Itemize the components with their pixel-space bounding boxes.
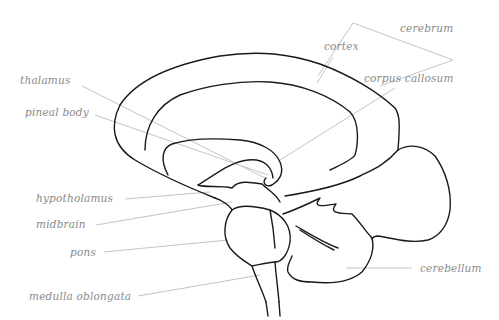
brainstem-left-outline bbox=[215, 198, 266, 302]
corpus-callosum-leader-line bbox=[280, 88, 395, 160]
label-cortex: cortex bbox=[324, 40, 359, 52]
label-hypotholamus: hypotholamus bbox=[36, 192, 113, 204]
occipital-lobe-outline bbox=[372, 146, 450, 241]
tentorium-outline bbox=[285, 150, 398, 196]
pineal-body-leader-line bbox=[95, 115, 268, 175]
pons-outline bbox=[252, 262, 279, 302]
hypotholamus-leader-line bbox=[125, 192, 210, 199]
label-pineal-body: pineal body bbox=[25, 106, 89, 118]
cortex-leader-line bbox=[317, 57, 333, 83]
label-pons: pons bbox=[70, 246, 96, 258]
midbrain-leader-line bbox=[96, 202, 232, 225]
label-cerebellum: cerebellum bbox=[420, 262, 482, 274]
spinal-cord-outline-2 bbox=[279, 302, 280, 316]
cortex-inner-outline bbox=[145, 82, 357, 170]
cerebellum-folia-line-2 bbox=[300, 230, 334, 250]
label-medulla-oblongata: medulla oblongata bbox=[29, 290, 131, 302]
pons-right-outline bbox=[270, 210, 290, 262]
pons-leader-line bbox=[104, 240, 228, 252]
label-corpus-callosum: corpus callosum bbox=[364, 72, 454, 84]
leader-lines bbox=[82, 23, 453, 296]
midbrain-outline bbox=[232, 206, 275, 248]
cerebellum-outline bbox=[283, 198, 373, 283]
label-midbrain: midbrain bbox=[36, 218, 86, 230]
cerebellum-folia-line bbox=[296, 226, 338, 248]
medulla-oblongata-leader-line bbox=[138, 275, 260, 296]
label-thalamus: thalamus bbox=[20, 74, 71, 86]
brain-outlines bbox=[114, 53, 450, 316]
spinal-cord-outline bbox=[266, 302, 268, 316]
label-cerebrum: cerebrum bbox=[400, 22, 453, 34]
